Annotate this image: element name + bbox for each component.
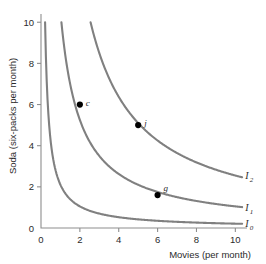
indifference-curve-chart: 02468100246810 cjg I0I1I2 Movies (per mo…	[0, 0, 266, 264]
curve-I1	[61, 22, 242, 207]
curve-labels: I0I1I2	[244, 170, 254, 232]
y-tick-label: 4	[29, 140, 34, 151]
x-tick-label: 6	[155, 234, 160, 245]
x-tick-label: 4	[116, 234, 121, 245]
data-point-g	[155, 192, 161, 198]
y-tick-label: 2	[29, 181, 34, 192]
x-axis-title: Movies (per month)	[169, 249, 251, 260]
curve-label-I2: I	[244, 170, 249, 181]
y-tick-label: 10	[23, 17, 34, 28]
point-label-g: g	[164, 183, 169, 193]
curve-label-sub-I0: 0	[250, 224, 254, 232]
chart-canvas: 02468100246810 cjg I0I1I2 Movies (per mo…	[0, 0, 266, 264]
data-points: cjg	[77, 98, 169, 199]
point-label-j: j	[143, 118, 147, 128]
curve-I2	[91, 22, 243, 177]
curve-label-sub-I2: 2	[250, 176, 254, 184]
data-point-c	[77, 101, 83, 107]
curve-label-I0: I	[244, 218, 249, 229]
x-tick-label: 10	[230, 234, 241, 245]
y-tick-label: 6	[29, 99, 34, 110]
y-tick-label: 0	[29, 223, 34, 234]
curve-label-I1: I	[244, 202, 249, 213]
y-axis-title: Soda (six-packs per month)	[7, 58, 18, 174]
x-tick-label: 2	[77, 234, 82, 245]
x-tick-label: 0	[38, 234, 43, 245]
curve-label-sub-I1: 1	[250, 208, 254, 216]
axis-titles: Movies (per month)Soda (six-packs per mo…	[7, 58, 251, 260]
data-point-j	[135, 122, 141, 128]
x-tick-label: 8	[194, 234, 199, 245]
axis-tick-labels: 02468100246810	[23, 17, 240, 245]
point-label-c: c	[86, 98, 90, 108]
y-tick-label: 8	[29, 58, 34, 69]
